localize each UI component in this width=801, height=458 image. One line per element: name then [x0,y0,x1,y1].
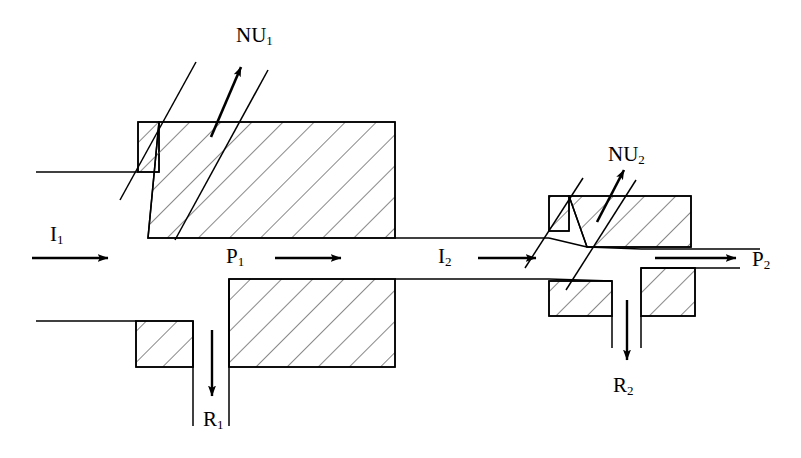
lower-right-body-block [641,268,695,316]
label-nu1: NU1 [236,25,273,47]
label-p1: P1 [226,246,244,268]
lower-right-flange-block [549,281,612,316]
label-p2: P2 [752,249,770,271]
label-i1: I1 [50,224,64,246]
figure-canvas: NU1 I1 P1 R1 I2 NU2 P2 R2 [0,0,801,458]
label-r2: R2 [613,375,634,397]
lower-left-flange-block [136,321,193,367]
label-r1: R1 [203,409,224,431]
upper-right-body-block [569,196,691,247]
label-i2: I2 [438,246,452,268]
label-nu2: NU2 [608,144,645,166]
lower-left-body-block [229,279,395,367]
piping-schematic [0,0,801,458]
